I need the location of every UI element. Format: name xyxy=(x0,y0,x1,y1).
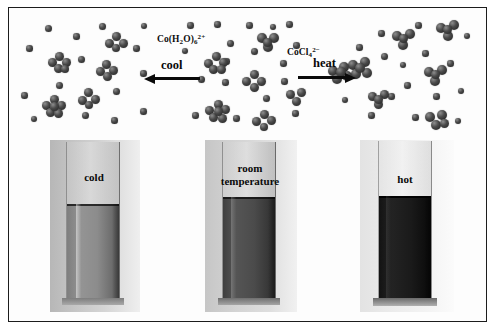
tetrachloro-cluster xyxy=(286,88,310,110)
room-temperature-tube-label: room temperature xyxy=(205,162,297,188)
sphere xyxy=(214,107,223,116)
sphere xyxy=(31,116,37,122)
sphere xyxy=(50,102,59,111)
sphere xyxy=(443,25,452,34)
hexaaqua-cluster xyxy=(42,95,68,119)
arrow-shaft xyxy=(153,77,200,80)
sphere xyxy=(119,39,128,48)
sphere xyxy=(214,21,221,28)
room-temperature-test-tube-photo: room temperature xyxy=(205,140,297,312)
tube-base xyxy=(373,298,437,306)
tube-meniscus xyxy=(379,196,431,198)
sphere xyxy=(297,88,306,97)
sphere xyxy=(111,117,118,124)
sphere xyxy=(113,88,120,95)
tube-shading xyxy=(112,204,119,304)
hexaaqua-cluster xyxy=(96,60,120,82)
sphere xyxy=(85,101,93,109)
sphere xyxy=(112,44,120,52)
tube-highlight xyxy=(76,204,81,304)
tube-base xyxy=(62,298,124,305)
sphere xyxy=(227,40,234,47)
sphere xyxy=(26,45,33,52)
sphere xyxy=(267,116,276,125)
sphere xyxy=(56,82,63,89)
sphere xyxy=(464,33,470,39)
tube-shading xyxy=(424,196,431,304)
sphere xyxy=(21,92,28,99)
sphere xyxy=(342,97,348,103)
sphere xyxy=(233,115,240,122)
tube-glass xyxy=(378,141,432,304)
heat-arrow xyxy=(298,72,356,82)
sphere xyxy=(422,50,429,57)
sphere xyxy=(355,63,365,73)
sphere xyxy=(133,45,140,52)
arrow-head-right-icon xyxy=(345,73,356,83)
tube-shading xyxy=(268,197,275,304)
hexaaqua-cluster xyxy=(105,32,129,54)
sphere xyxy=(281,78,288,85)
arrow-shaft xyxy=(298,76,347,79)
sphere xyxy=(61,65,69,73)
sphere xyxy=(217,65,226,74)
tetrachloro-cluster xyxy=(392,29,418,53)
cool-arrow xyxy=(144,73,200,83)
hot-test-tube-photo: hot xyxy=(360,140,454,312)
sphere xyxy=(263,38,272,47)
cold-test-tube-photo: cold xyxy=(50,140,140,312)
tube-meniscus xyxy=(223,197,275,199)
tube-highlight xyxy=(231,197,236,304)
sphere xyxy=(455,118,461,124)
heat-arrow-label: heat xyxy=(313,56,336,71)
hexaaqua-cluster xyxy=(242,70,268,93)
figure-root: Co(H2O)62+ CoCl42− cool heat cold xyxy=(0,0,495,331)
sphere xyxy=(140,108,147,115)
tetrachloro-cluster xyxy=(436,20,462,44)
hot-tube-label: hot xyxy=(383,173,427,186)
sphere xyxy=(415,22,422,29)
tube-meniscus xyxy=(67,204,119,206)
sphere xyxy=(378,30,385,37)
tube-glass xyxy=(66,142,120,304)
sphere xyxy=(270,24,276,30)
sphere xyxy=(222,79,229,86)
sphere xyxy=(141,23,147,29)
sphere xyxy=(103,72,112,81)
sphere xyxy=(286,21,293,28)
sphere xyxy=(356,44,363,51)
sphere xyxy=(458,88,464,94)
cool-arrow-label: cool xyxy=(161,58,183,73)
sphere xyxy=(400,62,406,68)
sphere xyxy=(192,112,199,119)
sphere xyxy=(263,95,270,102)
sphere xyxy=(73,33,80,40)
tube-liquid xyxy=(379,196,431,304)
sphere xyxy=(99,23,106,30)
hexaaquacobalt-formula-label: Co(H2O)62+ xyxy=(157,33,205,46)
tetrachloro-cluster xyxy=(425,110,453,134)
hexaaqua-cluster xyxy=(78,88,102,110)
sphere xyxy=(82,112,89,119)
tube-highlight xyxy=(386,196,391,304)
sphere xyxy=(440,119,449,128)
sphere xyxy=(292,110,299,117)
sphere xyxy=(374,95,383,104)
cold-tube-label: cold xyxy=(72,171,116,184)
sphere xyxy=(78,56,85,63)
sphere xyxy=(182,48,188,54)
tube-liquid xyxy=(223,197,275,304)
sphere xyxy=(260,123,268,131)
sphere xyxy=(280,60,287,67)
molecular-diagram-region: Co(H2O)62+ CoCl42− cool heat xyxy=(0,0,495,138)
sphere xyxy=(433,93,440,100)
hexaaqua-cluster xyxy=(205,100,233,125)
tetrachloro-cluster xyxy=(257,33,281,55)
sphere xyxy=(381,53,388,60)
tube-liquid xyxy=(67,204,119,304)
sphere xyxy=(404,82,411,89)
sphere xyxy=(412,114,419,121)
sphere xyxy=(45,25,52,32)
sphere xyxy=(292,97,301,106)
hexaaqua-cluster xyxy=(204,52,230,76)
